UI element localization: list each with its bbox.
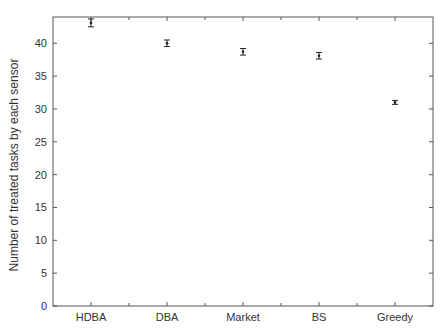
error-bar-point bbox=[240, 49, 246, 56]
error-bar-point bbox=[164, 40, 170, 47]
y-tick-label: 35 bbox=[35, 70, 47, 82]
chart-canvas: 0510152025303540 HDBADBAMarketBSGreedy N… bbox=[0, 0, 447, 333]
y-tick-label: 30 bbox=[35, 103, 47, 115]
error-bar-point bbox=[392, 100, 398, 104]
x-tick-label: HDBA bbox=[76, 311, 107, 323]
x-axis-ticks: HDBADBAMarketBSGreedy bbox=[76, 17, 414, 323]
y-tick-label: 15 bbox=[35, 201, 47, 213]
plot-axes bbox=[53, 17, 433, 306]
data-marker bbox=[318, 54, 321, 57]
errorbar-chart: 0510152025303540 HDBADBAMarketBSGreedy N… bbox=[0, 0, 447, 333]
data-marker bbox=[90, 22, 93, 25]
x-tick-label: BS bbox=[312, 311, 327, 323]
x-tick-label: DBA bbox=[156, 311, 179, 323]
y-axis-label: Number of treated tasks by each sensor bbox=[7, 59, 21, 272]
data-marker bbox=[394, 101, 397, 104]
data-marker bbox=[242, 51, 245, 54]
plot-frame bbox=[53, 17, 433, 306]
y-tick-label: 25 bbox=[35, 136, 47, 148]
data-points bbox=[88, 19, 398, 104]
data-marker bbox=[166, 42, 169, 45]
x-tick-label: Greedy bbox=[377, 311, 414, 323]
error-bar-point bbox=[316, 52, 322, 59]
y-tick-label: 10 bbox=[35, 234, 47, 246]
x-tick-label: Market bbox=[226, 311, 260, 323]
y-tick-label: 20 bbox=[35, 169, 47, 181]
y-tick-label: 40 bbox=[35, 37, 47, 49]
y-tick-label: 0 bbox=[41, 300, 47, 312]
y-tick-label: 5 bbox=[41, 267, 47, 279]
y-axis-ticks: 0510152025303540 bbox=[35, 37, 433, 312]
error-bar-point bbox=[88, 19, 94, 27]
